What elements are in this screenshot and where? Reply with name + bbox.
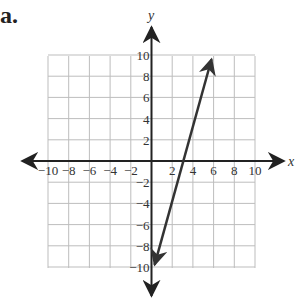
svg-text:10: 10 (137, 48, 150, 63)
svg-text:6: 6 (210, 163, 217, 178)
svg-text:8: 8 (143, 69, 150, 84)
svg-text:−10: −10 (129, 260, 149, 275)
svg-text:−4: −4 (136, 196, 150, 211)
svg-text:4: 4 (190, 163, 197, 178)
svg-text:−6: −6 (136, 218, 150, 233)
x-axis-label: x (287, 154, 295, 169)
y-axis-label: y (146, 8, 155, 23)
svg-text:2: 2 (143, 133, 150, 148)
svg-text:−8: −8 (136, 239, 150, 254)
svg-text:8: 8 (231, 163, 238, 178)
svg-text:10: 10 (249, 163, 262, 178)
svg-text:6: 6 (143, 90, 150, 105)
svg-text:−4: −4 (103, 163, 117, 178)
svg-text:−8: −8 (62, 163, 76, 178)
svg-text:4: 4 (143, 112, 150, 127)
coordinate-plane: −10−8−6−4−2246810108642−2−4−6−8−10 x y (0, 0, 306, 299)
svg-text:−10: −10 (38, 163, 58, 178)
axes (22, 27, 284, 296)
svg-text:−2: −2 (136, 175, 150, 190)
svg-text:2: 2 (169, 163, 176, 178)
data-line (155, 59, 212, 265)
svg-text:−6: −6 (82, 163, 96, 178)
